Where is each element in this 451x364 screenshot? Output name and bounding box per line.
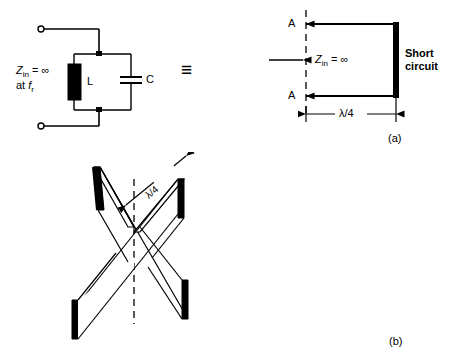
crossed-stubs-diagram: λ/4 [40,152,250,342]
top-terminal-circle [38,26,44,32]
shorting-bar [393,22,399,98]
equivalence-symbol: ≡ [181,59,192,81]
outline-ur-lower [152,218,184,258]
quarter-wave-stub-svg [255,0,451,160]
short-circuit-line2: circuit [405,60,438,73]
lc-tank-circuit: Zin= ∞ at fr L C [0,0,230,150]
lc-impedance-fsub: r [31,86,34,95]
lc-impedance-sub: in [23,70,29,79]
arm-upper-right-long-edge [78,179,178,304]
stub-impedance-sub: in [322,59,328,68]
arm-lower-left-short-face [72,300,78,339]
lc-impedance-z: Z [16,64,23,76]
crossed-stubs-svg [40,152,250,342]
stub-impedance-label: Zin= ∞ [315,53,348,68]
inductor-label: L [87,75,93,88]
stub-impedance-rest: = ∞ [331,53,348,65]
caption-b: (b) [389,335,402,348]
arm-lower-right-edge2 [146,227,188,280]
inductor-symbol [68,64,81,100]
figure-page: Zin= ∞ at fr L C ≡ [0,0,451,364]
lc-impedance-line1: Zin= ∞ [16,64,49,79]
arm-upper-right-short-face [178,179,184,218]
stub-length-label: λ/4 [339,107,354,120]
lc-impedance-at: at [16,79,28,91]
lc-impedance-line2: at fr [16,79,49,94]
arm-lower-right-short-face [182,280,188,319]
outline-ul-inner [100,167,134,227]
lc-impedance-label: Zin= ∞ at fr [16,64,49,95]
lc-impedance-rest: = ∞ [32,64,49,76]
reference-label-top-a: A [288,17,295,30]
caption-a: (a) [388,132,401,145]
reference-label-bottom-a: A [288,89,295,102]
bottom-terminal-circle [38,123,44,129]
stub-impedance-z: Z [315,53,322,65]
short-circuit-label: Short circuit [405,47,438,73]
short-circuit-line1: Short [405,47,438,60]
outline-lr-upper [148,267,182,319]
crossed-lambda-text-backdrop [143,153,177,186]
capacitor-label: C [146,73,154,86]
quarter-wave-stub-diagram: A A Zin= ∞ Short circuit λ/4 [255,0,451,160]
